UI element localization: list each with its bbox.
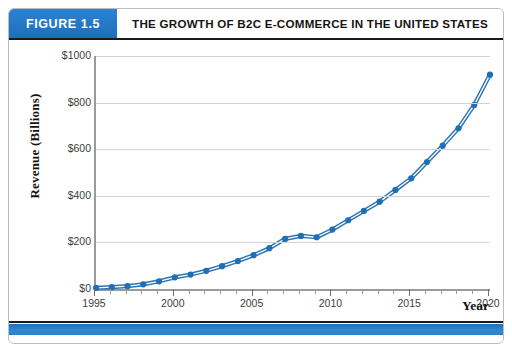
data-point-marker — [235, 258, 241, 264]
figure-header: FIGURE 1.5 THE GROWTH OF B2C E-COMMERCE … — [9, 9, 503, 40]
chart-area: Revenue (Billions) $0$200$400$600$800$10… — [9, 40, 503, 323]
x-axis: 199520002005201020152020 — [94, 289, 488, 315]
x-tick-minor — [362, 289, 363, 294]
data-point-marker — [187, 271, 193, 277]
data-point-marker — [440, 143, 446, 149]
y-tick-label: $0 — [47, 282, 91, 294]
data-point-marker — [140, 281, 146, 287]
x-tick-minor — [157, 289, 158, 294]
data-point-marker — [251, 252, 257, 258]
x-tick-minor — [126, 289, 127, 294]
y-tick-label: $200 — [47, 235, 91, 247]
x-tick-minor — [283, 289, 284, 294]
x-tick-minor — [425, 289, 426, 294]
line-chart-svg — [96, 56, 490, 289]
x-tick-label: 2015 — [398, 297, 421, 309]
data-point-marker — [487, 72, 493, 78]
y-tick-label: $600 — [47, 142, 91, 154]
gridline — [96, 196, 490, 197]
data-point-marker — [392, 187, 398, 193]
figure-footer — [9, 321, 503, 343]
figure-title: THE GROWTH OF B2C E-COMMERCE IN THE UNIT… — [117, 9, 503, 38]
x-tick-major — [330, 289, 331, 296]
data-point-marker — [377, 199, 383, 205]
x-tick-label: 2005 — [240, 297, 263, 309]
series-line-outer — [96, 75, 490, 288]
x-axis-title: Year — [462, 298, 489, 314]
figure-card: FIGURE 1.5 THE GROWTH OF B2C E-COMMERCE … — [8, 8, 504, 344]
x-tick-major — [173, 289, 174, 296]
figure-footer-bar — [9, 324, 503, 335]
x-tick-minor — [456, 289, 457, 294]
data-point-marker — [424, 159, 430, 165]
data-point-marker — [172, 274, 178, 280]
x-tick-label: 2000 — [161, 297, 184, 309]
x-tick-minor — [299, 289, 300, 294]
data-point-marker — [408, 175, 414, 181]
x-tick-minor — [204, 289, 205, 294]
series-line-inner — [96, 75, 490, 288]
data-point-marker — [298, 233, 304, 239]
gridline — [96, 149, 490, 150]
x-tick-minor — [110, 289, 111, 294]
x-tick-major — [409, 289, 410, 296]
data-point-marker — [329, 226, 335, 232]
data-point-marker — [314, 234, 320, 240]
x-tick-major — [94, 289, 95, 296]
y-tick-label: $800 — [47, 96, 91, 108]
x-tick-minor — [393, 289, 394, 294]
data-point-marker — [282, 236, 288, 242]
x-tick-major — [252, 289, 253, 296]
x-tick-major — [488, 289, 489, 296]
y-tick-label: $1000 — [47, 49, 91, 61]
x-tick-minor — [315, 289, 316, 294]
plot-frame — [94, 56, 490, 291]
figure-number-tag: FIGURE 1.5 — [9, 9, 117, 38]
gridline — [96, 242, 490, 243]
data-point-marker — [156, 278, 162, 284]
x-tick-minor — [441, 289, 442, 294]
x-tick-label: 2010 — [319, 297, 342, 309]
x-tick-minor — [346, 289, 347, 294]
x-tick-minor — [378, 289, 379, 294]
y-axis-tick-labels: $0$200$400$600$800$1000 — [45, 40, 91, 323]
x-tick-minor — [189, 289, 190, 294]
gridline — [96, 103, 490, 104]
data-point-marker — [455, 125, 461, 131]
gridline — [96, 56, 490, 57]
data-point-marker — [266, 245, 272, 251]
x-tick-minor — [236, 289, 237, 294]
data-point-marker — [361, 208, 367, 214]
x-tick-label: 1995 — [82, 297, 105, 309]
y-axis-title: Revenue (Billions) — [27, 76, 43, 216]
data-point-marker — [219, 263, 225, 269]
x-tick-minor — [472, 289, 473, 294]
data-point-marker — [203, 268, 209, 274]
y-tick-label: $400 — [47, 189, 91, 201]
x-tick-minor — [267, 289, 268, 294]
x-tick-minor — [141, 289, 142, 294]
x-tick-minor — [220, 289, 221, 294]
data-point-marker — [345, 217, 351, 223]
